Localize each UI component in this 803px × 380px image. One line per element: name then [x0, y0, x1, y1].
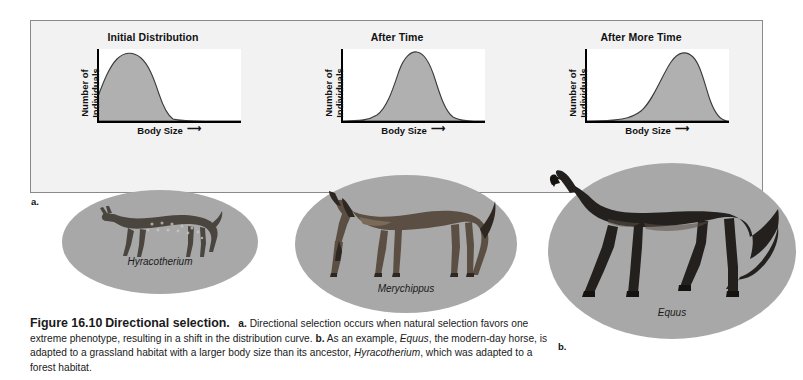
species-label: Equus — [548, 307, 796, 318]
caption-b-lead: As an example, — [327, 333, 397, 344]
medium-horse-illustration-icon — [315, 189, 499, 285]
species-label: Merychippus — [295, 283, 517, 294]
distribution-curve — [97, 49, 241, 121]
figure-16-10: Initial Distribution Number of Individua… — [0, 0, 803, 380]
y-axis-label: Number of Individuals — [567, 50, 589, 136]
large-horse-illustration-icon — [548, 169, 788, 305]
figure-caption: Figure 16.10 Directional selection. a. D… — [30, 316, 560, 375]
chart-title: After More Time — [519, 31, 763, 43]
plot-wrapper: Number of Individuals Body Size⟶ — [569, 49, 729, 137]
organism-equus: Equus — [548, 163, 796, 339]
caption-species-hyracotherium: Hyracotherium — [354, 347, 420, 358]
x-axis — [341, 121, 485, 123]
right-arrow-icon: ⟶ — [431, 123, 445, 134]
x-axis-label-text: Body Size — [381, 125, 426, 136]
organism-hyracotherium: Hyracotherium — [62, 190, 258, 294]
x-axis — [585, 121, 729, 123]
x-axis-label: Body Size⟶ — [97, 125, 241, 136]
x-axis-label-text: Body Size — [625, 125, 670, 136]
chart-after-time: After Time Number of Individuals Body Si… — [275, 21, 519, 192]
distribution-curve — [585, 49, 729, 121]
distribution-curve — [341, 49, 485, 121]
chart-initial-distribution: Initial Distribution Number of Individua… — [31, 21, 275, 192]
figure-number: Figure 16.10 — [30, 316, 102, 330]
panel-label-a: a. — [31, 196, 39, 207]
plot-wrapper: Number of Individuals Body Size⟶ — [81, 49, 241, 137]
chart-title: After Time — [275, 31, 519, 43]
figure-title: Directional selection. — [105, 316, 230, 330]
y-axis-label: Number of Individuals — [323, 50, 345, 136]
organism-merychippus: Merychippus — [295, 175, 517, 313]
y-axis-label: Number of Individuals — [79, 50, 101, 136]
x-axis-label-text: Body Size — [137, 125, 182, 136]
caption-species-equus: Equus — [400, 333, 429, 344]
right-arrow-icon: ⟶ — [675, 123, 689, 134]
x-axis-label: Body Size⟶ — [341, 125, 485, 136]
x-axis — [97, 121, 241, 123]
small-horse-illustration-icon — [92, 200, 232, 262]
right-arrow-icon: ⟶ — [187, 123, 201, 134]
caption-marker-a: a. — [238, 318, 247, 329]
chart-title: Initial Distribution — [31, 31, 275, 43]
plot-wrapper: Number of Individuals Body Size⟶ — [325, 49, 485, 137]
x-axis-label: Body Size⟶ — [585, 125, 729, 136]
species-label: Hyracotherium — [62, 256, 258, 267]
caption-marker-b: b. — [315, 333, 324, 344]
